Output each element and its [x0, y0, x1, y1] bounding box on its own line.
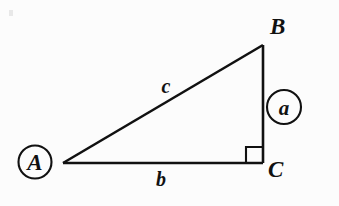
side-label-a: a	[279, 96, 290, 120]
vertex-label-c: C	[268, 157, 284, 182]
vertex-label-a: A	[25, 150, 42, 175]
scan-speck-artifact	[9, 10, 13, 16]
triangle-figure: A B C a b c	[0, 0, 339, 206]
right-angle-icon	[246, 147, 262, 162]
side-label-c: c	[162, 75, 171, 97]
triangle-diagram-svg: A B C a b c	[0, 0, 339, 206]
vertex-label-b: B	[269, 14, 285, 39]
side-c-hypotenuse	[63, 45, 263, 163]
side-label-b: b	[156, 168, 166, 190]
